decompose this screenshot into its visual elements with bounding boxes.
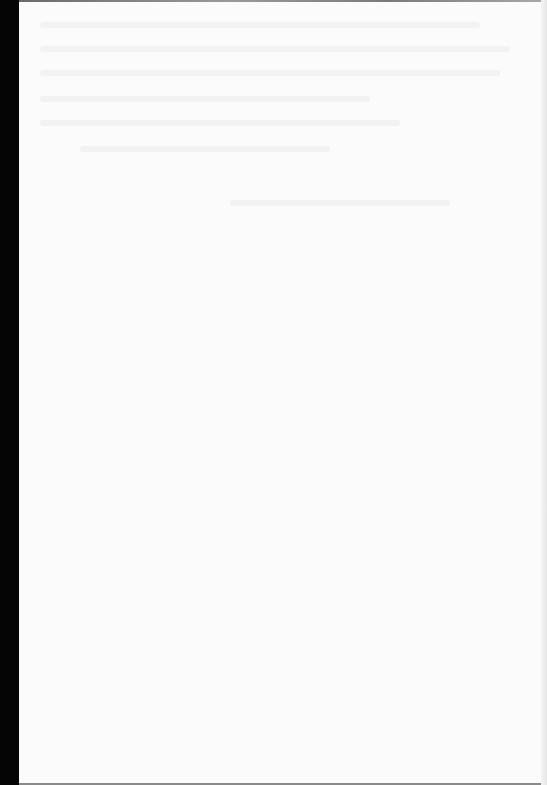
bleed-through-line [40, 22, 480, 28]
bleed-through-line [40, 96, 370, 102]
bleed-through-line [40, 46, 510, 52]
bleed-through-line [230, 200, 450, 206]
page-right-shadow [541, 0, 547, 785]
bleed-through-line [40, 120, 400, 126]
blank-page [19, 1, 547, 783]
bleed-through-line [80, 146, 330, 152]
scan-border-top [19, 0, 547, 2]
scan-border-left [0, 0, 19, 785]
bleed-through-line [40, 70, 500, 76]
